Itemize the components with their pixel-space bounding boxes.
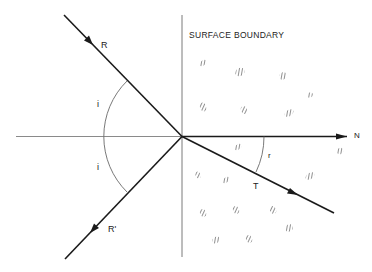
transmitted-arrow-icon xyxy=(287,188,298,195)
normal-arrow-icon xyxy=(336,134,347,140)
incident-ray-label: R xyxy=(101,41,108,50)
angle-r-label: r xyxy=(268,152,271,160)
angle-i-upper-label: i xyxy=(97,100,99,109)
diagram-canvas xyxy=(0,0,372,272)
angle-r-arc xyxy=(256,137,264,173)
reflected-ray-line xyxy=(65,137,182,260)
normal-label: N xyxy=(354,132,360,140)
reflected-ray-label: R' xyxy=(108,225,116,234)
transmitted-ray-label: T xyxy=(253,182,259,191)
angle-i-lower-label: i xyxy=(97,163,99,172)
incident-ray-line xyxy=(64,15,182,137)
surface-boundary-label: SURFACE BOUNDARY xyxy=(189,31,284,40)
